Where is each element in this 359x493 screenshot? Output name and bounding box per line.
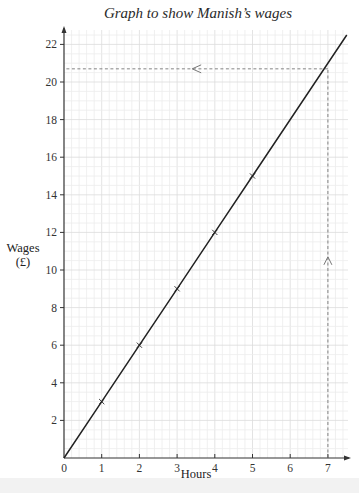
y-tick-label: 14 [46,189,58,201]
x-axis-arrow-icon [344,456,351,461]
y-tick-label: 12 [46,226,58,238]
wages-line [64,35,347,458]
wages-chart: Graph to show Manish’s wages 01234567 24… [0,0,359,493]
page-bottom-strip [0,478,359,493]
y-axis-ticks: 246810121416182022 [46,38,65,426]
y-tick-label: 22 [46,38,58,50]
x-tick-label: 5 [250,462,256,474]
x-tick-label: 1 [99,462,105,474]
y-axis-label: Wages [6,241,39,255]
y-axis-arrow-icon [62,26,67,33]
y-tick-label: 6 [51,339,57,351]
x-tick-label: 0 [61,462,67,474]
chart-title: Graph to show Manish’s wages [104,5,292,21]
y-tick-label: 10 [46,264,58,276]
x-tick-label: 7 [325,462,331,474]
x-tick-label: 6 [287,462,293,474]
y-tick-label: 2 [51,414,57,426]
y-tick-label: 16 [46,151,58,163]
x-tick-label: 4 [212,462,218,474]
y-tick-label: 8 [51,302,57,314]
y-tick-label: 20 [46,76,58,88]
wages-series [64,35,347,458]
x-tick-label: 3 [174,462,180,474]
y-tick-label: 18 [46,114,58,126]
y-axis-unit: (£) [16,255,31,269]
x-tick-label: 2 [137,462,143,474]
y-tick-label: 4 [51,377,57,389]
